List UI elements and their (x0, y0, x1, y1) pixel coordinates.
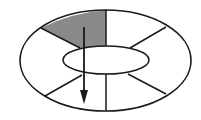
inner-ring-edge (63, 46, 149, 74)
shaded-segment-upper-left (41, 10, 106, 48)
divider-lower-left (45, 75, 82, 96)
arrow-head (80, 90, 88, 104)
ring-diagram (0, 0, 201, 120)
divider-upper-right (130, 27, 166, 48)
divider-lower-right (128, 74, 166, 94)
